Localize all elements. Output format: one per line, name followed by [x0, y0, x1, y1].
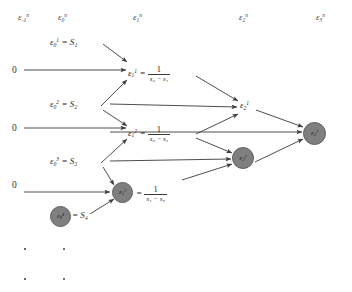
seed-value-4: S₄ [80, 210, 88, 220]
ellipsis-dot-4 [63, 278, 65, 280]
node-eps-3-1-circle: ε31 [303, 122, 326, 145]
node-eps-2-1: ε21 [240, 101, 249, 111]
eps-1-3-denominator: s₄ − s₃ [144, 194, 167, 203]
seed-node-3: ε03 = S₃ [50, 157, 77, 167]
seed-equals-1: = [61, 37, 67, 47]
ellipsis-dot-2 [24, 278, 26, 280]
seed-equals-4: = [72, 210, 78, 220]
seed-node-2: ε02 = S₂ [50, 100, 77, 110]
zero-input-2: 0 [12, 124, 17, 134]
edge-seed2row-to-eps21 [110, 104, 237, 107]
edge-eps12-to-eps21 [196, 114, 238, 134]
edge-eps13-to-eps22 [182, 164, 232, 180]
ellipsis-dot-1 [24, 248, 26, 250]
eps-1-3-equals: = [136, 188, 142, 198]
eps-1-2-numerator: 1 [148, 125, 171, 134]
zero-input-3: 0 [12, 181, 17, 191]
eps-1-1-fraction: 1 s₂ − s₁ [148, 65, 171, 83]
edge-eps22-to-eps31 [255, 139, 303, 162]
column-header-eps-3: ε3n [316, 13, 325, 23]
node-eps-1-3-value: = 1 s₄ − s₃ [136, 185, 167, 203]
eps-1-3-fraction: 1 s₄ − s₃ [144, 185, 167, 203]
eps-1-1-numerator: 1 [148, 65, 171, 74]
edge-eps21-to-eps31 [256, 110, 303, 127]
edge-seed4-to-eps13 [90, 199, 114, 214]
node-eps-1-3-circle: ε13 [112, 182, 133, 203]
edge-seed3-to-eps13 [103, 167, 114, 185]
eps-1-1-equals: = [139, 68, 145, 78]
node-eps-1-2: ε12 = 1 s₃ − s₂ [128, 125, 170, 143]
eps-1-1-denominator: s₂ − s₁ [148, 74, 171, 83]
seed-equals-3: = [61, 156, 67, 166]
column-header-eps-2: ε2n [239, 13, 248, 23]
eps-1-3-numerator: 1 [144, 185, 167, 194]
seed-value-3: S₃ [70, 156, 78, 166]
ellipsis-dot-3 [63, 248, 65, 250]
eps-1-2-denominator: s₃ − s₂ [148, 134, 171, 143]
column-header-eps-1: ε1n [133, 13, 142, 23]
edge-seed1-to-eps11 [103, 44, 127, 62]
eps-1-2-fraction: 1 s₃ − s₂ [148, 125, 171, 143]
seed-value-2: S₂ [70, 99, 78, 109]
edge-seed3row-to-eps22 [110, 159, 231, 161]
seed-node-1: ε01 = S₁ [50, 38, 77, 48]
eps-1-2-equals: = [139, 128, 145, 138]
node-eps-2-2-circle: ε22 [232, 147, 254, 169]
seed-node-4-circle: ε04 [50, 206, 71, 227]
zero-input-1: 0 [12, 66, 17, 76]
column-header-eps-neg1: ε-1n [18, 13, 29, 23]
column-header-eps-0: ε0n [58, 13, 67, 23]
edge-seed2-to-eps12 [103, 110, 127, 126]
edge-seed2-to-eps11 [101, 80, 127, 106]
diagram-canvas: ε-1n ε0n ε1n ε2n ε3n 0 0 0 ε01 = S₁ ε02 … [0, 0, 352, 292]
node-eps-1-1: ε11 = 1 s₂ − s₁ [128, 65, 170, 83]
seed-node-4-value: = S₄ [72, 211, 88, 220]
edge-eps11-to-eps21 [196, 76, 238, 101]
edge-seed3-to-eps12 [101, 139, 127, 163]
edge-eps12-to-eps22 [196, 138, 232, 153]
seed-equals-2: = [61, 99, 67, 109]
seed-value-1: S₁ [70, 37, 78, 47]
